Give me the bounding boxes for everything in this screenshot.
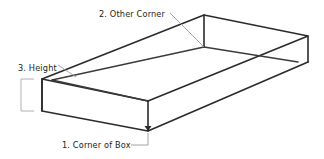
callout-other-corner: 2. Other Corner xyxy=(99,9,204,47)
height-label: 3. Height xyxy=(18,63,57,73)
callout-height: 3. Height xyxy=(18,63,76,111)
box-front-left-wall xyxy=(42,79,148,131)
box-inner-floor-left xyxy=(52,80,148,101)
height-bracket xyxy=(21,79,34,111)
box-top-rim-outer xyxy=(42,15,308,101)
other-corner-label: 2. Other Corner xyxy=(99,9,166,19)
box-inner-rim-back-left xyxy=(52,47,204,80)
corner-of-box-leader-line xyxy=(131,133,148,145)
corner-of-box-label: 1. Corner of Box xyxy=(62,140,131,150)
box-shape xyxy=(42,15,308,131)
diagram-canvas: 2. Other Corner 3. Height 1. Corner of B… xyxy=(0,0,324,159)
other-corner-leader-line xyxy=(170,13,204,47)
box-front-right-wall xyxy=(148,62,308,131)
box-diagram-svg: 2. Other Corner 3. Height 1. Corner of B… xyxy=(0,0,324,159)
